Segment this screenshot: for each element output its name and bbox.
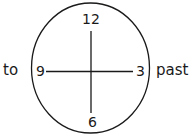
number-3: 3 bbox=[136, 64, 145, 78]
label-to: to bbox=[3, 63, 18, 78]
label-past: past bbox=[156, 63, 188, 78]
clock-diagram: 12 3 6 9 to past bbox=[0, 0, 189, 140]
number-12: 12 bbox=[82, 12, 100, 26]
number-6: 6 bbox=[88, 115, 97, 129]
number-9: 9 bbox=[36, 64, 45, 78]
